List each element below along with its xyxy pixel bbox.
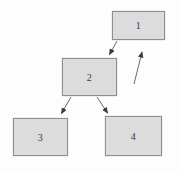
flowchart-node-3: 3 bbox=[13, 118, 68, 156]
flowchart-canvas: 1 2 3 4 bbox=[0, 0, 179, 172]
node-1-label: 1 bbox=[136, 20, 142, 31]
flowchart-node-1: 1 bbox=[112, 11, 165, 40]
node-4-label: 4 bbox=[131, 131, 137, 142]
edge-2-to-4 bbox=[97, 97, 108, 113]
detached-up-arrow bbox=[134, 52, 142, 84]
edge-2-to-3 bbox=[62, 97, 72, 114]
edge-1-to-2 bbox=[110, 41, 118, 55]
node-3-label: 3 bbox=[38, 132, 44, 143]
node-2-label: 2 bbox=[87, 72, 93, 83]
flowchart-node-4: 4 bbox=[105, 116, 162, 156]
flowchart-node-2: 2 bbox=[62, 58, 117, 96]
